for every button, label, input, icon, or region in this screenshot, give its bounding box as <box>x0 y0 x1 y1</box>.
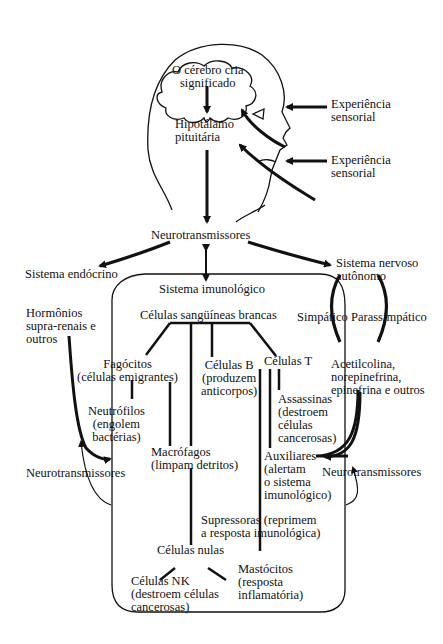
t-cells-label: Células T <box>264 355 312 368</box>
suppressor-cells-label: Supressoras (reprimem a resposta imunoló… <box>201 514 320 540</box>
sensory-experience-label-1: Experiência sensorial <box>331 98 391 124</box>
autonomic-neurotransmitters-label: Neurotransmissores <box>322 466 421 479</box>
mast-cells-label: Mastócitos (resposta inflamatória) <box>238 563 303 602</box>
autonomic-nervous-system-label: Sistema nervoso autônomo <box>336 257 418 283</box>
neurochemicals-label: Acetilcolina, norepinefrina, epinefrina … <box>331 358 425 397</box>
b-cells-label: Células B (produzem anticorpos) <box>201 359 257 398</box>
endocrine-system-label: Sistema endócrino <box>25 268 118 281</box>
immune-system-label: Sistema imunológico <box>159 283 265 296</box>
nk-cells-label: Células NK (destroem células cancerosas) <box>131 575 219 614</box>
brain-label: O cérebro cria significado <box>172 64 243 90</box>
neutrophils-label: Neutrófilos (engolem bactérias) <box>88 405 145 444</box>
hormones-label: Hormônios supra-renais e outros <box>26 307 96 346</box>
macrophages-label: Macrófagos (limpam detritos) <box>151 446 238 472</box>
null-cells-label: Células nulas <box>157 544 224 557</box>
endocrine-neurotransmitters-label: Neurotransmissores <box>26 467 125 480</box>
sensory-experience-label-2: Experiência sensorial <box>331 154 391 180</box>
phagocytes-label: Fagócitos (células emigrantes) <box>77 358 178 384</box>
hypothalamus-label: Hipotálamo pituitária <box>175 118 234 144</box>
sympathetic-label: Simpático <box>297 311 348 324</box>
helper-cells-label: Auxiliares (alertam o sistema imunológic… <box>264 450 331 502</box>
neurotransmitters-top-label: Neurotransmissores <box>151 229 250 242</box>
killer-cells-label: Assassinas (destroem células cancerosas) <box>278 393 336 445</box>
white-blood-cells-label: Células sangüíneas brancas <box>140 309 277 322</box>
parasympathetic-label: Parassimpático <box>351 311 427 324</box>
mind-body-diagram: O cérebro cria significado Hipotálamo pi… <box>0 0 443 644</box>
